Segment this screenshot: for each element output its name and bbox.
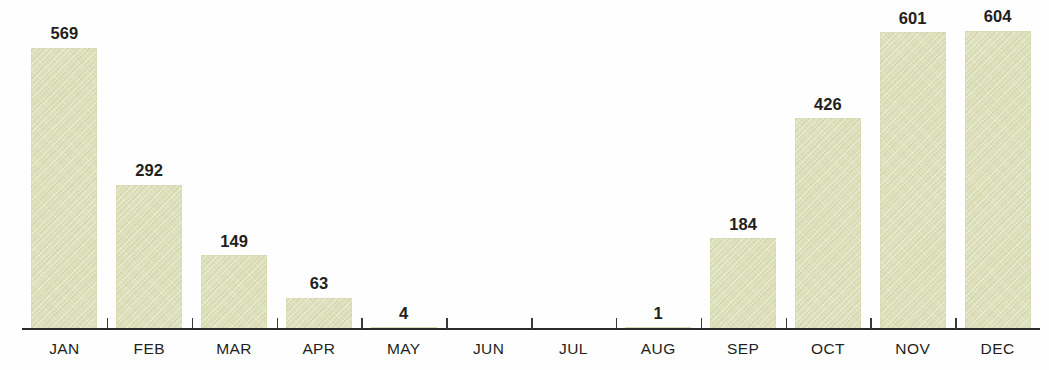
bar-group-nov[interactable]: 601 — [870, 0, 955, 329]
axis-tick-6 — [531, 318, 533, 329]
axis-tick-5 — [446, 318, 448, 329]
value-label-may: 4 — [399, 305, 408, 322]
bar-chart: 5692921496341184426601604 JANFEBMARAPRMA… — [0, 0, 1049, 370]
value-label-jan: 569 — [50, 25, 78, 42]
value-label-aug: 1 — [654, 305, 663, 322]
category-label-oct: OCT — [786, 340, 871, 358]
axis-tick-3 — [277, 318, 279, 329]
axis-tick-11 — [955, 318, 957, 329]
bar-group-may[interactable]: 4 — [361, 0, 446, 329]
value-label-nov: 601 — [899, 10, 927, 27]
value-label-apr: 63 — [310, 275, 329, 292]
axis-tick-10 — [870, 318, 872, 329]
category-label-may: MAY — [361, 340, 446, 358]
bar-nov[interactable] — [880, 32, 946, 329]
bar-feb[interactable] — [116, 185, 182, 329]
bar-group-jun[interactable] — [446, 0, 531, 329]
value-label-sep: 184 — [729, 216, 757, 233]
bar-oct[interactable] — [795, 118, 861, 329]
bar-group-feb[interactable]: 292 — [107, 0, 192, 329]
category-label-mar: MAR — [192, 340, 277, 358]
bar-group-mar[interactable]: 149 — [192, 0, 277, 329]
category-label-jan: JAN — [22, 340, 107, 358]
category-label-feb: FEB — [107, 340, 192, 358]
bar-group-apr[interactable]: 63 — [277, 0, 362, 329]
category-label-aug: AUG — [616, 340, 701, 358]
axis-tick-7 — [616, 318, 618, 329]
plot-area: 5692921496341184426601604 — [22, 0, 1040, 329]
bar-jan[interactable] — [31, 48, 97, 329]
category-label-nov: NOV — [870, 340, 955, 358]
category-label-sep: SEP — [701, 340, 786, 358]
bar-group-dec[interactable]: 604 — [955, 0, 1040, 329]
axis-tick-9 — [786, 318, 788, 329]
bar-apr[interactable] — [286, 298, 352, 329]
value-label-feb: 292 — [135, 162, 163, 179]
axis-tick-8 — [701, 318, 703, 329]
axis-tick-1 — [107, 318, 109, 329]
bar-group-aug[interactable]: 1 — [616, 0, 701, 329]
bar-group-jul[interactable] — [531, 0, 616, 329]
category-label-apr: APR — [277, 340, 362, 358]
bar-group-jan[interactable]: 569 — [22, 0, 107, 329]
bar-mar[interactable] — [201, 255, 267, 329]
bar-sep[interactable] — [710, 238, 776, 329]
category-label-jun: JUN — [446, 340, 531, 358]
bar-dec[interactable] — [965, 31, 1031, 329]
value-label-mar: 149 — [220, 233, 248, 250]
axis-tick-2 — [192, 318, 194, 329]
category-label-jul: JUL — [531, 340, 616, 358]
category-label-dec: DEC — [955, 340, 1040, 358]
axis-tick-4 — [361, 318, 363, 329]
value-label-dec: 604 — [984, 8, 1012, 25]
value-label-oct: 426 — [814, 96, 842, 113]
bar-group-oct[interactable]: 426 — [786, 0, 871, 329]
x-axis-category-labels: JANFEBMARAPRMAYJUNJULAUGSEPOCTNOVDEC — [22, 336, 1040, 370]
bar-group-sep[interactable]: 184 — [701, 0, 786, 329]
